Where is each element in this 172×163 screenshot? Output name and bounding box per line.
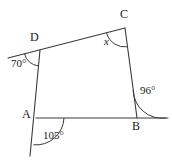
vertex-label-b: B bbox=[132, 120, 140, 132]
vertex-label-d: D bbox=[30, 31, 39, 43]
geometry-figure: A B C D 70° x 96° 105° bbox=[0, 0, 172, 163]
angle-arc-d bbox=[24, 54, 38, 66]
angle-label-a: 105° bbox=[43, 130, 64, 141]
angle-arc-c bbox=[107, 33, 128, 47]
diagram-canvas bbox=[0, 0, 172, 163]
angle-label-c: x bbox=[104, 36, 109, 47]
vertex-label-a: A bbox=[22, 108, 31, 120]
vertex-label-c: C bbox=[120, 8, 128, 20]
line-cb bbox=[125, 28, 137, 118]
angle-label-d: 70° bbox=[11, 58, 26, 69]
angle-label-b: 96° bbox=[140, 85, 155, 96]
